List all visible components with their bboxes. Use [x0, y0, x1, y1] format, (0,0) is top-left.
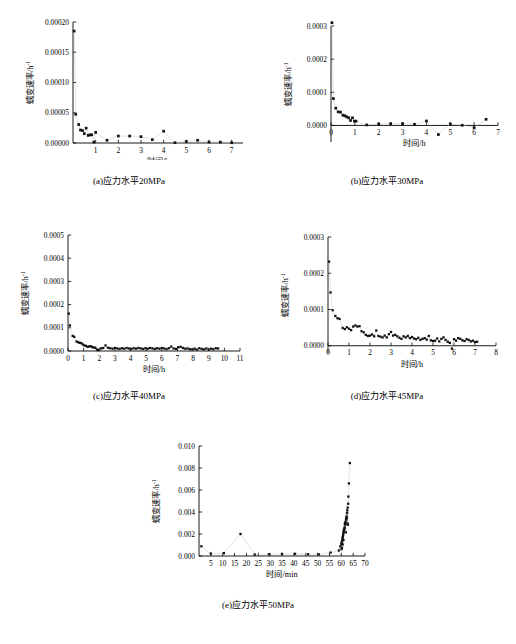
svg-text:0.002: 0.002	[178, 530, 195, 539]
svg-text:0.0002: 0.0002	[304, 269, 325, 278]
svg-text:0.00000: 0.00000	[45, 139, 69, 148]
svg-text:10: 10	[219, 559, 227, 568]
svg-text:时间/h: 时间/h	[403, 138, 425, 148]
svg-text:0.0003: 0.0003	[304, 233, 325, 242]
svg-text:55: 55	[326, 559, 334, 568]
svg-text:3: 3	[401, 128, 405, 137]
svg-text:3: 3	[139, 146, 143, 155]
svg-text:7: 7	[473, 348, 477, 357]
svg-text:0.0003: 0.0003	[307, 22, 328, 31]
svg-text:2: 2	[368, 348, 372, 357]
svg-text:10: 10	[221, 354, 229, 363]
caption-c: (c)应力水平40MPa	[0, 389, 258, 402]
svg-text:0.000: 0.000	[178, 552, 195, 561]
svg-text:20: 20	[243, 559, 251, 568]
svg-text:5: 5	[144, 354, 148, 363]
svg-text:4: 4	[129, 354, 133, 363]
svg-text:60: 60	[338, 559, 346, 568]
svg-text:0.0002: 0.0002	[44, 300, 65, 309]
caption-d: (d)应力水平45MPa	[258, 389, 516, 402]
svg-text:0.0003: 0.0003	[44, 277, 65, 286]
svg-text:0.008: 0.008	[178, 464, 195, 473]
chart-panel-d: 0.00000.00010.00020.0003012345678时间/h蠕变速…	[258, 215, 516, 430]
svg-text:0: 0	[66, 354, 70, 363]
svg-text:2: 2	[97, 354, 101, 363]
svg-text:0.0001: 0.0001	[307, 88, 328, 97]
svg-text:7: 7	[176, 354, 180, 363]
svg-text:6: 6	[160, 354, 164, 363]
svg-text:时间/h: 时间/h	[401, 359, 423, 369]
svg-text:时间/min: 时间/min	[266, 569, 297, 579]
svg-text:0.0004: 0.0004	[44, 254, 65, 263]
svg-text:50: 50	[314, 559, 322, 568]
svg-text:1: 1	[347, 348, 351, 357]
svg-text:1: 1	[82, 354, 86, 363]
plot-area-b: 0.00000.00010.00020.000301234567时间/h蠕变速率…	[258, 0, 516, 160]
svg-text:5: 5	[184, 146, 188, 155]
svg-text:4: 4	[425, 128, 429, 137]
svg-text:0.0000: 0.0000	[304, 341, 325, 350]
svg-text:6: 6	[207, 146, 211, 155]
chart-panel-c: 0.00000.00010.00020.00030.00040.00050123…	[0, 215, 258, 430]
svg-text:0.00020: 0.00020	[45, 18, 69, 27]
svg-text:蠕变速率/h-1: 蠕变速率/h-1	[280, 273, 290, 316]
svg-text:1: 1	[94, 146, 98, 155]
svg-text:3: 3	[389, 348, 393, 357]
scatter-plot-e: 0.0000.0020.0040.0060.0080.0105101520253…	[129, 430, 387, 582]
figure-sheet: 0.000000.000050.000100.000150.0002012345…	[0, 0, 516, 644]
svg-text:3: 3	[113, 354, 117, 363]
svg-text:5: 5	[431, 348, 435, 357]
plot-area-d: 0.00000.00010.00020.0003012345678时间/h蠕变速…	[258, 215, 516, 375]
svg-text:0.006: 0.006	[178, 486, 195, 495]
caption-e: (e)应力水平50MPa	[129, 598, 387, 611]
chart-panel-b: 0.00000.00010.00020.000301234567时间/h蠕变速率…	[258, 0, 516, 215]
svg-text:0.00005: 0.00005	[45, 108, 69, 117]
svg-text:65: 65	[349, 559, 357, 568]
svg-text:0.0000: 0.0000	[307, 121, 328, 130]
scatter-plot-a: 0.000000.000050.000100.000150.0002012345…	[0, 0, 258, 160]
caption-b: (b)应力水平30MPa	[258, 174, 516, 187]
svg-text:4: 4	[410, 348, 414, 357]
plot-area-a: 0.000000.000050.000100.000150.0002012345…	[0, 0, 258, 160]
plot-area-e: 0.0000.0020.0040.0060.0080.0105101520253…	[129, 430, 387, 582]
svg-text:9: 9	[207, 354, 211, 363]
svg-text:5: 5	[209, 559, 213, 568]
svg-text:0: 0	[326, 348, 330, 357]
svg-text:6: 6	[472, 128, 476, 137]
svg-text:2: 2	[116, 146, 120, 155]
scatter-plot-d: 0.00000.00010.00020.0003012345678时间/h蠕变速…	[258, 215, 516, 375]
svg-text:蠕变速率/h-1: 蠕变速率/h-1	[20, 271, 30, 314]
svg-text:30: 30	[266, 559, 274, 568]
svg-text:蠕变速率/h-1: 蠕变速率/h-1	[25, 61, 35, 104]
svg-text:8: 8	[191, 354, 195, 363]
caption-a: (a)应力水平20MPa	[0, 174, 258, 187]
svg-text:11: 11	[236, 354, 243, 363]
svg-text:蠕变速率/h-1: 蠕变速率/h-1	[283, 62, 293, 105]
chart-panel-a: 0.000000.000050.000100.000150.0002012345…	[0, 0, 258, 215]
svg-text:0: 0	[329, 128, 333, 137]
svg-text:时间/h: 时间/h	[143, 364, 165, 374]
svg-text:0.004: 0.004	[178, 508, 195, 517]
svg-text:4: 4	[162, 146, 166, 155]
svg-text:0.0000: 0.0000	[44, 347, 65, 356]
plot-area-c: 0.00000.00010.00020.00030.00040.00050123…	[0, 215, 258, 375]
svg-text:0.010: 0.010	[178, 442, 195, 451]
svg-text:25: 25	[255, 559, 263, 568]
scatter-plot-c: 0.00000.00010.00020.00030.00040.00050123…	[0, 215, 258, 375]
svg-text:1: 1	[353, 128, 357, 137]
svg-text:0.0001: 0.0001	[44, 323, 65, 332]
svg-text:15: 15	[231, 559, 239, 568]
svg-text:7: 7	[496, 128, 500, 137]
svg-text:0.0001: 0.0001	[304, 305, 325, 314]
svg-text:2: 2	[377, 128, 381, 137]
svg-text:5: 5	[448, 128, 452, 137]
chart-panel-e: 0.0000.0020.0040.0060.0080.0105101520253…	[129, 430, 387, 644]
svg-text:时间/h: 时间/h	[147, 156, 169, 160]
svg-text:45: 45	[302, 559, 310, 568]
svg-text:0.00015: 0.00015	[45, 48, 69, 57]
svg-text:8: 8	[494, 348, 498, 357]
svg-text:70: 70	[361, 559, 369, 568]
svg-text:0.00010: 0.00010	[45, 78, 69, 87]
svg-text:35: 35	[278, 559, 286, 568]
svg-text:7: 7	[230, 146, 234, 155]
